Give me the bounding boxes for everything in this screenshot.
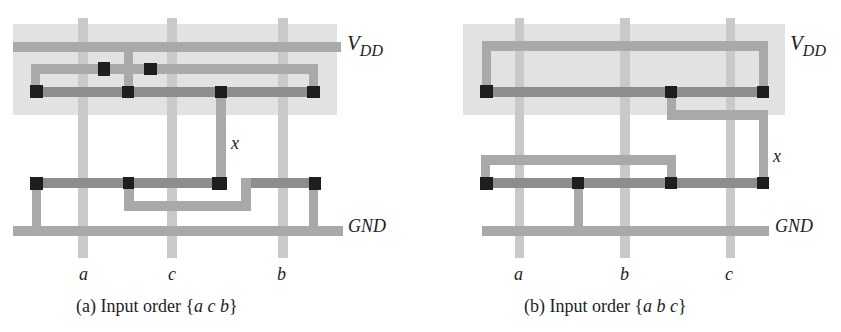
vdd-label: VDD <box>347 31 383 59</box>
output-wire-x-across <box>667 110 768 120</box>
vdd-drop-left <box>482 41 491 92</box>
poly-gate-c <box>167 18 177 258</box>
poly-gate-b <box>620 18 630 258</box>
pmos-diffusion <box>36 87 313 97</box>
layout-diagram: VDD GND x a c b (a) Input order {a c b} <box>0 0 841 332</box>
contact <box>572 177 584 189</box>
gnd-label: GND <box>348 216 386 236</box>
panel-b: VDD GND x a b c (b) Input order {a b c} <box>463 18 826 317</box>
nmos-diffusion <box>486 178 763 188</box>
poly-gate-a <box>515 18 524 258</box>
contact <box>98 62 110 76</box>
contact <box>30 177 43 190</box>
gnd-rail <box>13 226 343 236</box>
contact <box>215 86 227 98</box>
panel-a: VDD GND x a c b (a) Input order {a c b} <box>13 18 386 317</box>
contact <box>480 85 493 98</box>
input-label-b: b <box>620 264 629 284</box>
vdd-rail <box>13 42 341 52</box>
caption-a: (a) Input order {a c b} <box>76 296 238 317</box>
output-wire-x <box>216 92 226 183</box>
vdd-label: VDD <box>790 31 826 59</box>
contact <box>480 177 493 190</box>
contact <box>665 86 677 98</box>
gnd-label: GND <box>775 216 813 236</box>
gnd-stub <box>574 183 583 231</box>
input-label-a: a <box>514 264 523 284</box>
contact <box>144 63 157 75</box>
poly-gate-b <box>278 18 288 258</box>
contact <box>307 86 320 98</box>
input-label-c: c <box>725 264 733 284</box>
contact <box>665 177 677 189</box>
vdd-rail <box>482 41 768 51</box>
metal-loop-top <box>481 155 676 165</box>
gnd-stub-right <box>309 183 318 231</box>
poly-gate-a <box>78 18 88 258</box>
output-wire-x-right <box>759 110 768 183</box>
nmos-diffusion-right <box>246 178 313 188</box>
metal-u-right <box>241 178 251 211</box>
contact <box>309 177 321 190</box>
contact <box>212 177 227 190</box>
input-label-a: a <box>79 264 88 284</box>
contact <box>757 86 769 98</box>
caption-b: (b) Input order {a b c} <box>524 296 687 317</box>
pmos-diffusion <box>486 87 763 97</box>
contact <box>757 177 769 189</box>
contact <box>123 177 134 189</box>
contact <box>122 86 134 98</box>
node-x-label: x <box>772 146 781 166</box>
input-label-c: c <box>168 264 176 284</box>
input-label-b: b <box>277 264 286 284</box>
node-x-label: x <box>230 133 239 153</box>
gnd-stub-left <box>32 183 41 231</box>
gnd-rail <box>482 226 769 236</box>
metal-loop-top <box>31 64 318 74</box>
metal-u-bottom <box>124 201 250 211</box>
contact <box>30 85 43 98</box>
vdd-drop-right <box>759 41 768 92</box>
poly-gate-c <box>726 18 735 258</box>
